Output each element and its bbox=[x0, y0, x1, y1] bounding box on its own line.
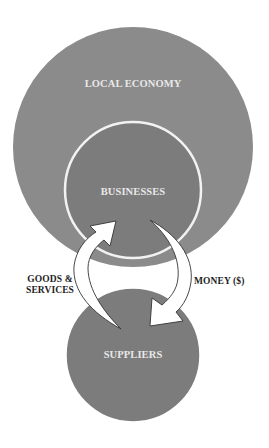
goods-services-label-line-2: SERVICES bbox=[24, 285, 76, 296]
money-label-line-1: MONEY ($) bbox=[194, 276, 244, 287]
suppliers-label: SUPPLIERS bbox=[104, 349, 163, 360]
diagram-canvas bbox=[0, 0, 269, 448]
money-label: MONEY ($) bbox=[194, 276, 244, 287]
goods-services-label: GOODS & SERVICES bbox=[24, 274, 76, 296]
local-economy-label: LOCAL ECONOMY bbox=[85, 78, 182, 89]
businesses-label: BUSINESSES bbox=[101, 186, 166, 197]
goods-services-label-line-1: GOODS & bbox=[24, 274, 76, 285]
local-economy-diagram: LOCAL ECONOMY BUSINESSES SUPPLIERS GOODS… bbox=[0, 0, 269, 448]
